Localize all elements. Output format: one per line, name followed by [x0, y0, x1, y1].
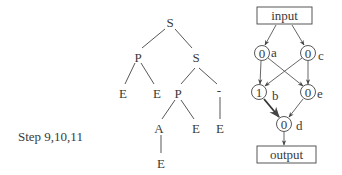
tree-edge: [181, 68, 195, 84]
edge-e-d: [289, 99, 303, 117]
tree-edge: [199, 68, 217, 84]
tree-node-E: E: [119, 86, 127, 101]
graph-node-d-name: d: [296, 118, 303, 133]
tree-edge: [141, 63, 154, 84]
edge-c-b: [265, 58, 302, 86]
tree-node-E: E: [192, 121, 200, 136]
dataflow-graph: input 0 a 0 c 1 b 0 e 0 d output: [252, 7, 325, 163]
step-label: Step 9,10,11: [18, 129, 83, 144]
edge-input-a: [265, 25, 276, 45]
graph-node-c-value: 0: [305, 46, 312, 61]
graph-node-c-name: c: [318, 48, 324, 63]
tree-node-A: A: [154, 121, 164, 136]
edge-input-c: [292, 25, 304, 45]
tree-node-E: E: [153, 86, 161, 101]
tree-node-E: E: [216, 121, 224, 136]
output-label: output: [270, 147, 304, 162]
graph-node-d-value: 0: [281, 117, 288, 132]
tree-node-P: P: [134, 50, 141, 65]
graph-node-e-name: e: [317, 86, 323, 101]
graph-node-a-name: a: [271, 45, 277, 60]
tree-node-S-root: S: [166, 15, 173, 30]
tree-edge: [162, 100, 175, 119]
edge-a-b: [260, 61, 261, 84]
tree-node-dash: -: [217, 83, 221, 98]
edge-a-e: [268, 58, 303, 86]
graph-node-a-value: 0: [259, 46, 266, 61]
tree-edge: [125, 63, 135, 84]
tree-edge: [142, 29, 165, 48]
parse-tree: S P S E E P - A E E E: [119, 15, 224, 171]
tree-edge: [181, 100, 194, 119]
graph-node-e-value: 0: [305, 85, 312, 100]
tree-node-P: P: [174, 86, 181, 101]
graph-node-b-name: b: [272, 88, 279, 103]
tree-node-S: S: [192, 50, 199, 65]
diagram-canvas: Step 9,10,11 S P S E E P - A E E E input: [0, 0, 342, 175]
graph-node-b-value: 1: [256, 85, 263, 100]
input-label: input: [271, 8, 298, 23]
tree-node-E: E: [157, 156, 165, 171]
tree-edge: [175, 29, 192, 48]
